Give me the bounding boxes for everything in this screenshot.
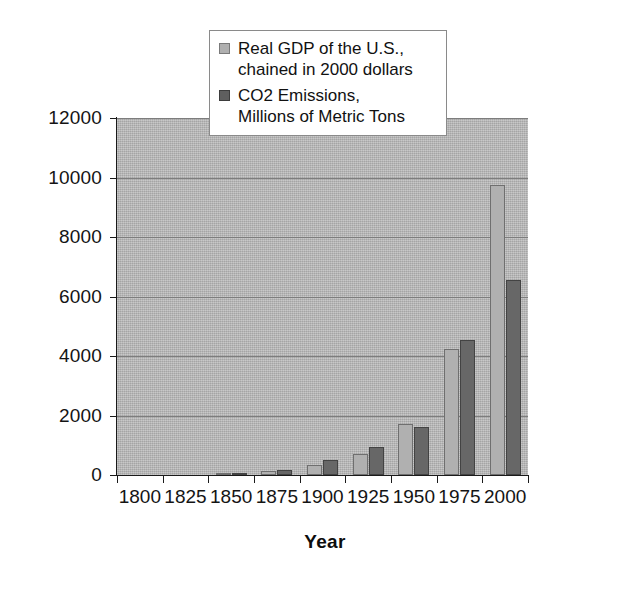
x-axis-tick-label: 1850 bbox=[210, 486, 252, 508]
y-axis-line bbox=[116, 117, 117, 476]
x-axis-tick-label: 1925 bbox=[347, 486, 389, 508]
x-axis-tick-label: 1950 bbox=[393, 486, 435, 508]
bar-co2-2000 bbox=[506, 280, 521, 475]
y-axis-tick-label: 2000 bbox=[59, 405, 102, 427]
y-axis-tick-label: 12000 bbox=[48, 107, 102, 129]
x-axis-tick bbox=[163, 476, 164, 483]
x-axis-tick bbox=[345, 476, 346, 483]
bar-co2-1950 bbox=[414, 427, 429, 475]
plot-area bbox=[117, 118, 528, 475]
bar-gdp-1975 bbox=[444, 349, 459, 475]
gdp-swatch-icon bbox=[219, 43, 230, 54]
legend-label-co2: CO2 Emissions, Millions of Metric Tons bbox=[238, 85, 405, 127]
bar-co2-1925 bbox=[369, 447, 384, 475]
bar-co2-1975 bbox=[460, 340, 475, 475]
y-axis-tick bbox=[110, 475, 116, 476]
x-axis-title-text: Year bbox=[280, 531, 345, 552]
gridline bbox=[117, 237, 528, 238]
x-axis-tick-label: 1900 bbox=[301, 486, 343, 508]
y-axis-tick bbox=[110, 237, 116, 238]
x-axis-tick bbox=[254, 476, 255, 483]
y-axis-tick bbox=[110, 178, 116, 179]
y-axis-tick-label: 6000 bbox=[59, 286, 102, 308]
chart-figure: 020004000600080001000012000 180018251850… bbox=[0, 0, 626, 614]
bar-gdp-2000 bbox=[490, 185, 505, 475]
x-axis-title: Year bbox=[0, 531, 626, 553]
x-axis-tick-labels: 180018251850187519001925195019752000 bbox=[117, 486, 528, 516]
bar-co2-1900 bbox=[323, 460, 338, 475]
x-axis-tick bbox=[208, 476, 209, 483]
y-axis-tick bbox=[110, 297, 116, 298]
y-axis-tick-label: 8000 bbox=[59, 226, 102, 248]
x-axis-tick bbox=[391, 476, 392, 483]
gridline bbox=[117, 297, 528, 298]
y-axis-tick-label: 4000 bbox=[59, 345, 102, 367]
bar-gdp-1925 bbox=[353, 454, 368, 475]
co2-swatch-icon bbox=[219, 90, 230, 101]
legend-label-gdp: Real GDP of the U.S., chained in 2000 do… bbox=[238, 38, 413, 80]
y-axis-tick bbox=[110, 118, 116, 119]
y-axis-tick-labels: 020004000600080001000012000 bbox=[0, 0, 106, 614]
x-axis-tick-label: 1975 bbox=[438, 486, 480, 508]
x-axis-tick bbox=[482, 476, 483, 483]
x-axis-tick bbox=[437, 476, 438, 483]
y-axis-tick-label: 10000 bbox=[48, 167, 102, 189]
bar-gdp-1900 bbox=[307, 465, 322, 475]
gridline bbox=[117, 178, 528, 179]
x-axis-tick bbox=[528, 476, 529, 483]
x-axis-tick-label: 2000 bbox=[484, 486, 526, 508]
y-axis-tick-label: 0 bbox=[91, 464, 102, 486]
x-axis-tick-label: 1800 bbox=[119, 486, 161, 508]
x-axis-tick-label: 1825 bbox=[164, 486, 206, 508]
legend-entry-co2: CO2 Emissions, Millions of Metric Tons bbox=[219, 85, 437, 127]
y-axis-tick bbox=[110, 416, 116, 417]
x-axis-line bbox=[116, 475, 529, 476]
bar-gdp-1950 bbox=[398, 424, 413, 475]
x-axis-tick bbox=[117, 476, 118, 483]
x-axis-tick bbox=[300, 476, 301, 483]
legend-entry-gdp: Real GDP of the U.S., chained in 2000 do… bbox=[219, 38, 437, 80]
chart-legend: Real GDP of the U.S., chained in 2000 do… bbox=[209, 30, 447, 136]
x-axis-tick-label: 1875 bbox=[256, 486, 298, 508]
y-axis-tick bbox=[110, 356, 116, 357]
